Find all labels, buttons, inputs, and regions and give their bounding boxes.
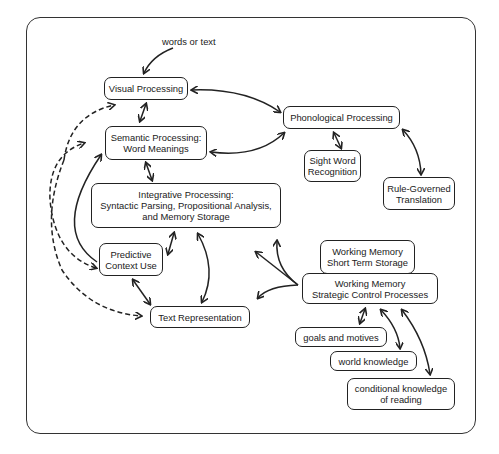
node-predictive-context-use: Predictive Context Use bbox=[99, 243, 163, 276]
node-rule-governed-translation: Rule-Governed Translation bbox=[383, 177, 455, 210]
arrow-visual-semantic bbox=[140, 104, 146, 121]
arrow-wm-goals bbox=[360, 309, 365, 323]
node-label: Working Memory bbox=[332, 246, 403, 257]
node-label: Visual Processing bbox=[109, 83, 183, 94]
node-working-memory-short-term: Working Memory Short Term Storage bbox=[320, 240, 415, 274]
node-text-representation: Text Representation bbox=[150, 306, 250, 328]
node-label: Syntactic Parsing, Propositional Analysi… bbox=[100, 200, 271, 211]
node-label: Text Representation bbox=[158, 312, 241, 323]
input-label: words or text bbox=[162, 36, 216, 47]
arrow-input-visual bbox=[144, 48, 173, 73]
arrow-phono-visual bbox=[192, 90, 280, 112]
node-label: Strategic Control Processes bbox=[312, 289, 428, 300]
node-label: goals and motives bbox=[303, 332, 379, 343]
node-label: Integrative Processing: bbox=[138, 189, 233, 200]
node-label: Phonological Processing bbox=[290, 112, 393, 123]
node-label: Working Memory bbox=[335, 278, 406, 289]
node-label: Recognition bbox=[308, 166, 358, 177]
node-label: of reading bbox=[380, 394, 422, 405]
arrow-phono-semantic bbox=[211, 133, 284, 153]
node-goals-and-motives: goals and motives bbox=[295, 327, 387, 347]
arrow-wm-integrative-b bbox=[277, 241, 298, 285]
arrow-predictive-textrep bbox=[133, 280, 150, 304]
node-label: Predictive bbox=[110, 249, 151, 260]
node-label: Context Use bbox=[105, 260, 157, 271]
node-label: Short Term Storage bbox=[327, 257, 408, 268]
arrow-integrative-predictive bbox=[168, 233, 174, 254]
arrow-integrative-textrep bbox=[198, 234, 209, 302]
arrow-phono-sightword bbox=[334, 133, 341, 148]
node-sight-word-recognition: Sight Word Recognition bbox=[304, 150, 361, 182]
node-label: Semantic Processing: bbox=[111, 132, 202, 143]
node-label: Rule-Governed bbox=[387, 183, 451, 194]
node-visual-processing: Visual Processing bbox=[104, 77, 188, 100]
node-world-knowledge: world knowledge bbox=[330, 351, 417, 371]
node-label: Word Meanings bbox=[123, 143, 188, 154]
node-label: Sight Word bbox=[309, 155, 355, 166]
dashed-arrow-predictive-semantic bbox=[50, 143, 96, 268]
arrow-wm-textrep bbox=[258, 285, 298, 298]
node-label: Translation bbox=[396, 194, 442, 205]
node-conditional-knowledge: conditional knowledge of reading bbox=[347, 378, 455, 410]
node-label: world knowledge bbox=[339, 356, 409, 367]
node-working-memory-strategic: Working Memory Strategic Control Process… bbox=[302, 273, 438, 304]
arrow-phono-rule bbox=[403, 130, 421, 174]
node-semantic-processing: Semantic Processing: Word Meanings bbox=[105, 126, 207, 160]
node-phonological-processing: Phonological Processing bbox=[283, 106, 400, 129]
arrow-semantic-integrative bbox=[146, 163, 152, 180]
node-integrative-processing: Integrative Processing: Syntactic Parsin… bbox=[91, 183, 281, 228]
node-label: conditional knowledge bbox=[355, 383, 447, 394]
node-label: and Memory Storage bbox=[142, 211, 230, 222]
